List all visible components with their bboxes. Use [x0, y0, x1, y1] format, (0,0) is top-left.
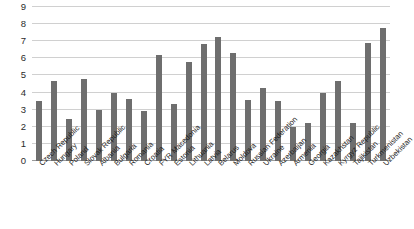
y-tick-label: 9 [0, 2, 26, 12]
y-tick-label: 6 [0, 53, 26, 63]
bar-slot [315, 7, 330, 161]
y-tick-label: 4 [0, 88, 26, 98]
bar[interactable] [36, 101, 42, 161]
bars-layer [32, 7, 390, 161]
bar-slot [136, 7, 151, 161]
bar-slot [122, 7, 137, 161]
y-tick-label: 0 [0, 156, 26, 166]
y-tick-label: 3 [0, 105, 26, 115]
bar-slot [211, 7, 226, 161]
bar-slot [196, 7, 211, 161]
bar-slot [77, 7, 92, 161]
plot-area [32, 7, 390, 161]
bar-slot [32, 7, 47, 161]
bar-slot [226, 7, 241, 161]
y-tick-label: 8 [0, 19, 26, 29]
bar-slot [241, 7, 256, 161]
x-axis-category-labels: Czech RepublicHungaryPolandSlovak Republ… [32, 162, 390, 229]
y-tick-label: 2 [0, 122, 26, 132]
y-tick-label: 1 [0, 139, 26, 149]
y-tick-label: 5 [0, 70, 26, 80]
bar[interactable] [215, 37, 221, 161]
bar-slot [151, 7, 166, 161]
y-tick-label: 7 [0, 36, 26, 46]
